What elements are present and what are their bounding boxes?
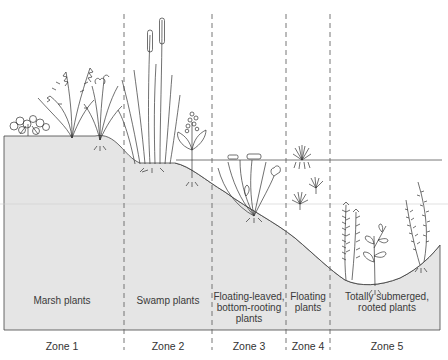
zone-1-plant-type-label: Marsh plants bbox=[33, 295, 90, 306]
zone-4-label: Zone 4 bbox=[292, 340, 325, 352]
zone-3-label-line-1: Floating-leaved, bbox=[213, 291, 284, 302]
zone-1-label: Zone 1 bbox=[46, 340, 79, 352]
zone-2-plant-type-label: Swamp plants bbox=[137, 295, 200, 306]
zone-4-label-line-1: Floating bbox=[290, 291, 326, 302]
zone-5-plant-type-label: Totally submerged, rooted plants bbox=[345, 291, 429, 313]
cattail-icon bbox=[118, 18, 180, 173]
low-shrub-icon bbox=[10, 116, 50, 137]
zone-5-label-line-1: Totally submerged, bbox=[345, 291, 429, 302]
zone-2-label: Zone 2 bbox=[152, 340, 185, 352]
zone-4-label-line-2: plants bbox=[290, 302, 326, 313]
zone-4-plant-type-label: Floating plants bbox=[290, 291, 326, 313]
zone-5-label: Zone 5 bbox=[371, 340, 404, 352]
zone-3-plant-type-label: Floating-leaved, bottom-rooting plants bbox=[213, 291, 284, 324]
zone-3-label-line-2: bottom-rooting bbox=[213, 302, 284, 313]
bushy-marsh-plant-icon bbox=[38, 68, 94, 138]
lily-pad-icon bbox=[228, 155, 238, 159]
zone-3-label-line-3: plants bbox=[213, 313, 284, 324]
zone-3-label: Zone 3 bbox=[233, 340, 266, 352]
zone-5-label-line-2: rooted plants bbox=[345, 302, 429, 313]
lily-pad-icon bbox=[247, 154, 261, 159]
